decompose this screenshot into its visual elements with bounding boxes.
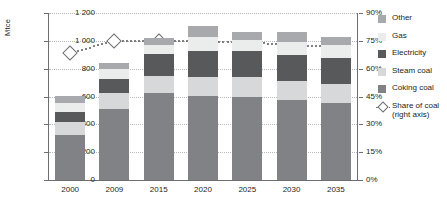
y2-axis-tick-mark bbox=[359, 180, 363, 181]
x-axis-tick-label: 2030 bbox=[269, 185, 315, 194]
x-axis-tick-label: 2020 bbox=[180, 185, 226, 194]
line-dot bbox=[227, 41, 229, 43]
legend-swatch bbox=[378, 50, 386, 58]
line-dot bbox=[174, 40, 176, 42]
bar-segment bbox=[188, 96, 218, 180]
legend-label: Other bbox=[392, 13, 412, 23]
bar-segment bbox=[321, 103, 351, 180]
y-axis-tick-mark bbox=[44, 180, 48, 181]
bar-segment bbox=[232, 32, 262, 40]
line-dot bbox=[307, 45, 309, 47]
bar-segment bbox=[188, 77, 218, 96]
x-axis-tick-label: 2000 bbox=[47, 185, 93, 194]
bar-segment bbox=[232, 40, 262, 51]
bar-segment bbox=[277, 100, 307, 180]
bar-segment bbox=[321, 84, 351, 103]
legend-swatch bbox=[378, 68, 386, 76]
y2-axis-tick-mark bbox=[359, 13, 363, 14]
y2-axis-tick-mark bbox=[359, 97, 363, 98]
legend-item[interactable]: Other bbox=[378, 12, 447, 30]
legend-label: Electricity bbox=[392, 48, 426, 58]
legend-item[interactable]: Coking coal bbox=[378, 82, 447, 100]
bar-segment bbox=[277, 32, 307, 42]
chart-legend: OtherGasElectricitySteam coalCoking coal… bbox=[378, 12, 447, 126]
x-axis-tick-label: 2035 bbox=[313, 185, 359, 194]
y2-axis-tick-mark bbox=[359, 152, 363, 153]
bar-group bbox=[277, 13, 307, 180]
bar-segment bbox=[144, 93, 174, 180]
line-dot bbox=[315, 45, 317, 47]
bar-segment bbox=[144, 76, 174, 93]
bar-segment bbox=[188, 26, 218, 38]
legend-item[interactable]: Gas bbox=[378, 30, 447, 48]
bar-segment bbox=[99, 93, 129, 108]
line-dot bbox=[85, 48, 87, 50]
x-axis-tick-label: 2009 bbox=[91, 185, 137, 194]
line-dot bbox=[222, 41, 224, 43]
line-dot bbox=[93, 45, 95, 47]
bar-segment bbox=[232, 97, 262, 181]
line-dot bbox=[134, 40, 136, 42]
bar-segment bbox=[321, 45, 351, 58]
x-axis-tick-label: 2025 bbox=[224, 185, 270, 194]
bar-segment bbox=[277, 42, 307, 55]
line-dot bbox=[311, 45, 313, 47]
line-dot bbox=[89, 47, 91, 49]
legend-diamond-icon bbox=[377, 101, 388, 112]
bar-segment bbox=[99, 109, 129, 180]
legend-swatch bbox=[378, 85, 386, 93]
bar-group bbox=[99, 13, 129, 180]
bar-segment bbox=[55, 122, 85, 136]
bar-group bbox=[232, 13, 262, 180]
bar-segment bbox=[99, 79, 129, 94]
line-dot bbox=[178, 40, 180, 42]
bar-group bbox=[144, 13, 174, 180]
y-axis-title-wrap: Mtce bbox=[0, 10, 14, 50]
legend-sublabel: (right axis) bbox=[392, 110, 429, 120]
bar-segment bbox=[321, 58, 351, 83]
line-dot bbox=[138, 40, 140, 42]
line-dot bbox=[130, 40, 132, 42]
bar-segment bbox=[144, 45, 174, 55]
bar-segment bbox=[144, 54, 174, 76]
bar-segment bbox=[55, 96, 85, 104]
bar-segment bbox=[232, 51, 262, 77]
bar-group bbox=[188, 13, 218, 180]
bar-segment bbox=[277, 81, 307, 100]
bar-segment bbox=[232, 77, 262, 96]
legend-item[interactable]: Electricity bbox=[378, 47, 447, 65]
y2-axis-tick-mark bbox=[359, 124, 363, 125]
bar-segment bbox=[55, 135, 85, 180]
stacked-bar-chart: Mtce 02004006008001 0001 200 0%15%30%45%… bbox=[0, 0, 447, 206]
line-dot bbox=[182, 40, 184, 42]
bar-segment bbox=[321, 37, 351, 45]
legend-item-share-of-coal[interactable]: Share of coal(right axis) bbox=[378, 100, 447, 126]
bar-group bbox=[321, 13, 351, 180]
bar-segment bbox=[277, 55, 307, 81]
bar-segment bbox=[99, 69, 129, 79]
legend-label: Steam coal bbox=[392, 66, 432, 76]
legend-label: Coking coal bbox=[392, 83, 434, 93]
bar-segment bbox=[99, 63, 129, 69]
bar-segment bbox=[55, 103, 85, 112]
bar-segment bbox=[188, 51, 218, 77]
y2-axis-tick-label: 15% bbox=[366, 148, 400, 156]
legend-item[interactable]: Steam coal bbox=[378, 65, 447, 83]
line-dot bbox=[267, 43, 269, 45]
bar-segment bbox=[188, 37, 218, 51]
y2-axis-tick-label: 0% bbox=[366, 176, 400, 184]
y-axis-title: Mtce bbox=[3, 8, 12, 48]
line-dot bbox=[218, 41, 220, 43]
bar-group bbox=[55, 13, 85, 180]
y2-axis-tick-mark bbox=[359, 41, 363, 42]
line-dot bbox=[263, 42, 265, 44]
legend-swatch bbox=[378, 33, 386, 41]
y2-axis-tick-mark bbox=[359, 69, 363, 70]
bar-segment bbox=[144, 38, 174, 45]
legend-swatch bbox=[378, 15, 386, 23]
line-dot bbox=[271, 43, 273, 45]
bar-segment bbox=[55, 112, 85, 121]
x-axis-tick-label: 2015 bbox=[136, 185, 182, 194]
legend-label: Gas bbox=[392, 31, 407, 41]
